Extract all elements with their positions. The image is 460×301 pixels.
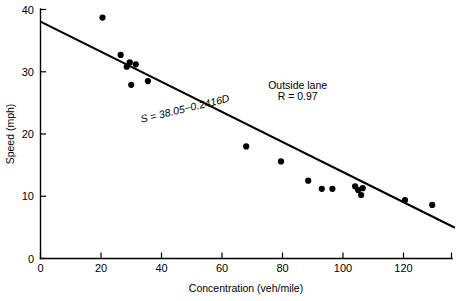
chart-background (0, 0, 460, 301)
x-tick-label-0: 0 (37, 262, 43, 274)
x-axis-title: Concentration (veh/mile) (189, 282, 303, 294)
chart-canvas: 40 30 20 10 0 Speed (mph) 0 20 40 60 80 … (0, 0, 460, 301)
y-axis-title: Speed (mph) (4, 104, 16, 165)
x-tick-label-120: 120 (394, 262, 412, 274)
y-tick-label-20: 20 (22, 128, 34, 140)
scatter-plot-figure: 40 30 20 10 0 Speed (mph) 0 20 40 60 80 … (0, 0, 460, 301)
data-point (99, 14, 105, 20)
data-point (305, 178, 311, 184)
data-point (402, 197, 408, 203)
y-tick-label-40: 40 (22, 4, 34, 16)
data-point (360, 185, 366, 191)
data-point (118, 52, 124, 58)
x-tick-label-40: 40 (155, 262, 167, 274)
data-point (278, 158, 284, 164)
data-point (145, 78, 151, 84)
correlation-coefficient-label: R = 0.97 (278, 90, 318, 102)
x-tick-label-20: 20 (95, 262, 107, 274)
data-point (243, 143, 249, 149)
data-point (133, 61, 139, 67)
data-point (128, 82, 134, 88)
y-tick-label-10: 10 (22, 190, 34, 202)
data-point (358, 192, 364, 198)
data-point (319, 186, 325, 192)
x-tick-label-100: 100 (334, 262, 352, 274)
data-point (127, 59, 133, 65)
data-point (329, 186, 335, 192)
x-tick-label-80: 80 (276, 262, 288, 274)
x-tick-label-60: 60 (216, 262, 228, 274)
y-tick-label-0: 0 (28, 253, 34, 265)
y-tick-label-30: 30 (22, 66, 34, 78)
data-point (429, 202, 435, 208)
